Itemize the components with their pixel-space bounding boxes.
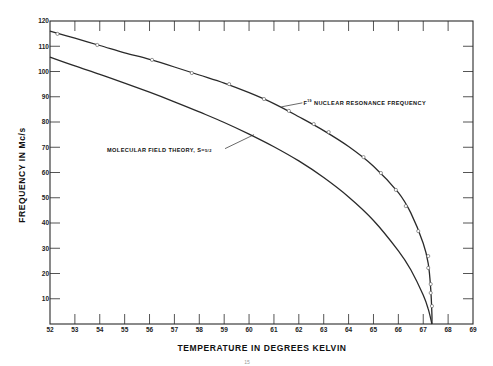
x-tick-label: 56 bbox=[146, 326, 154, 333]
data-point-marker bbox=[429, 283, 432, 286]
f19-resonance-curve bbox=[50, 31, 432, 324]
x-tick-label: 68 bbox=[445, 326, 453, 333]
data-point-marker bbox=[394, 188, 397, 191]
x-tick-label: 65 bbox=[370, 326, 378, 333]
x-tick-label: 55 bbox=[121, 326, 129, 333]
page-number: 15 bbox=[244, 359, 250, 365]
x-tick-label: 61 bbox=[270, 326, 278, 333]
data-point-marker bbox=[429, 291, 432, 294]
x-tick-label: 63 bbox=[320, 326, 328, 333]
data-point-marker bbox=[427, 266, 430, 269]
y-tick-label: 80 bbox=[42, 118, 50, 125]
y-tick-label: 40 bbox=[42, 219, 50, 226]
y-tick-label: 70 bbox=[42, 144, 50, 151]
plot-border bbox=[50, 21, 473, 324]
data-point-marker bbox=[427, 254, 430, 257]
f19-leader-line bbox=[281, 103, 302, 107]
annotations: F19 NUCLEAR RESONANCE FREQUENCYMOLECULAR… bbox=[107, 99, 426, 152]
x-axis-title: TEMPERATURE IN DEGREES KELVIN bbox=[177, 343, 346, 353]
x-tick-label: 52 bbox=[46, 326, 54, 333]
x-tick-label: 53 bbox=[71, 326, 79, 333]
y-tick-label: 120 bbox=[38, 17, 49, 24]
x-tick-label: 59 bbox=[221, 326, 229, 333]
molecular-leader-line bbox=[225, 135, 254, 149]
data-point-marker bbox=[56, 32, 59, 35]
data-point-marker bbox=[287, 109, 290, 112]
y-tick-label: 90 bbox=[42, 93, 50, 100]
data-point-marker bbox=[190, 71, 193, 74]
data-point-marker bbox=[430, 304, 433, 307]
y-tick-label: 10 bbox=[42, 295, 50, 302]
data-point-marker bbox=[417, 229, 420, 232]
x-axis-ticks: 525354555657585960616263646566676869 bbox=[46, 21, 477, 333]
x-tick-label: 57 bbox=[171, 326, 179, 333]
x-tick-label: 60 bbox=[245, 326, 253, 333]
x-tick-label: 62 bbox=[295, 326, 303, 333]
x-tick-label: 54 bbox=[96, 326, 104, 333]
y-tick-label: 50 bbox=[42, 194, 50, 201]
molecular-field-theory-curve bbox=[50, 57, 432, 324]
y-tick-label: 60 bbox=[42, 169, 50, 176]
data-point-marker bbox=[327, 131, 330, 134]
data-point-marker bbox=[312, 122, 315, 125]
y-tick-label: 20 bbox=[42, 270, 50, 277]
data-series bbox=[50, 31, 434, 324]
x-tick-label: 58 bbox=[196, 326, 204, 333]
y-axis-ticks: 102030405060708090100110120 bbox=[38, 17, 473, 302]
data-point-marker bbox=[96, 43, 99, 46]
chart: 525354555657585960616263646566676869 102… bbox=[0, 0, 493, 366]
x-tick-label: 64 bbox=[345, 326, 353, 333]
data-point-marker bbox=[150, 58, 153, 61]
molecular-field-label: MOLECULAR FIELD THEORY, S=5/2 bbox=[107, 147, 212, 153]
x-tick-label: 67 bbox=[420, 326, 428, 333]
data-point-marker bbox=[404, 204, 407, 207]
x-tick-label: 69 bbox=[469, 326, 477, 333]
y-axis-title: FREQUENCY IN Mc/s bbox=[17, 127, 27, 223]
plot-frame bbox=[50, 21, 473, 324]
data-point-marker bbox=[228, 83, 231, 86]
x-tick-label: 66 bbox=[395, 326, 403, 333]
y-tick-label: 110 bbox=[39, 43, 50, 50]
y-tick-label: 30 bbox=[42, 245, 50, 252]
y-tick-label: 100 bbox=[38, 68, 49, 75]
data-point-marker bbox=[262, 97, 265, 100]
f19-label: F19 NUCLEAR RESONANCE FREQUENCY bbox=[303, 99, 426, 106]
data-point-marker bbox=[362, 155, 365, 158]
data-point-marker bbox=[379, 171, 382, 174]
